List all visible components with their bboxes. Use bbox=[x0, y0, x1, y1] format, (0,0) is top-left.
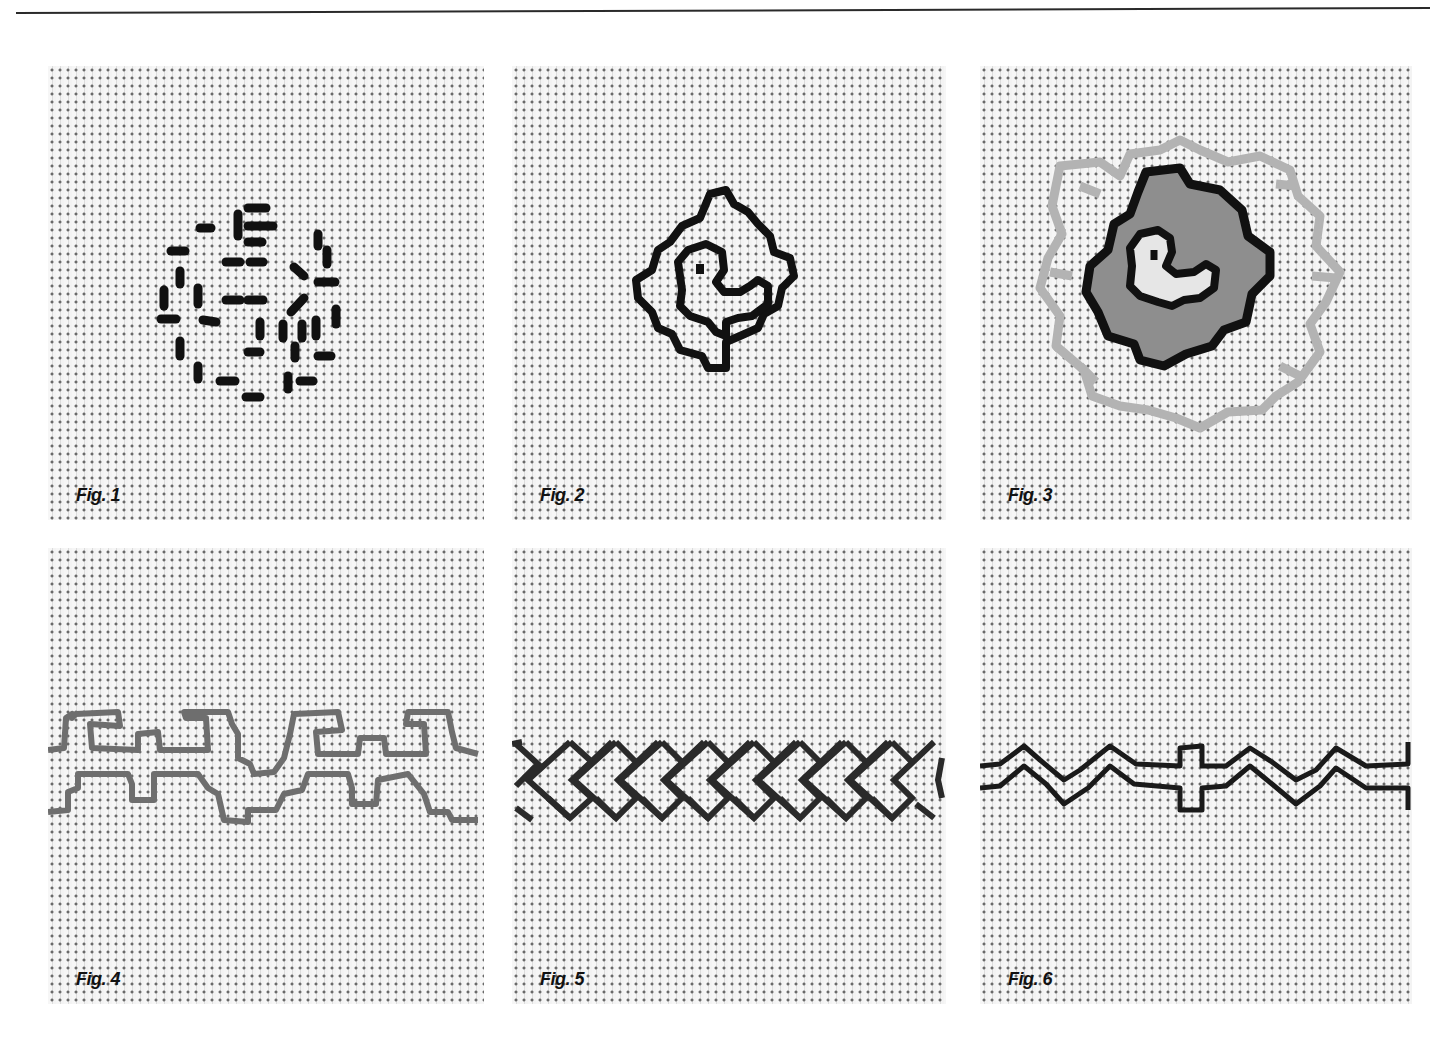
interlaced-chevron-border-motif bbox=[512, 548, 946, 1004]
filled-bird-medallion-motif bbox=[980, 66, 1412, 520]
bird-medallion-outline-motif bbox=[512, 66, 946, 520]
double-zigzag-cross-border-motif bbox=[980, 548, 1412, 1004]
figure-2-panel: Fig. 2 bbox=[512, 66, 946, 520]
figure-5-label: Fig. 5 bbox=[540, 969, 584, 990]
figure-4-label: Fig. 4 bbox=[76, 969, 120, 990]
figure-1-label: Fig. 1 bbox=[76, 485, 120, 506]
figure-1-panel: Fig. 1 bbox=[48, 66, 484, 520]
top-rule bbox=[16, 7, 1430, 14]
figure-6-panel: Fig. 6 bbox=[980, 548, 1412, 1004]
figure-3-label: Fig. 3 bbox=[1008, 485, 1052, 506]
figure-2-label: Fig. 2 bbox=[540, 485, 584, 506]
figure-3-panel: Fig. 3 bbox=[980, 66, 1412, 520]
figure-4-panel: Fig. 4 bbox=[48, 548, 484, 1004]
running-stitch-circle-motif bbox=[48, 66, 484, 520]
stepped-meander-border-motif bbox=[48, 548, 484, 1004]
figure-6-label: Fig. 6 bbox=[1008, 969, 1052, 990]
figure-5-panel: Fig. 5 bbox=[512, 548, 946, 1004]
